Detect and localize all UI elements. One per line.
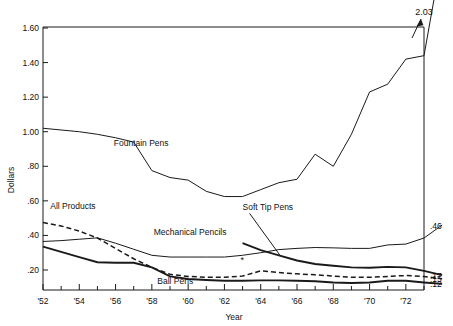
series-label-fountain-pens: Fountain Pens [114,138,169,148]
x-tick-label: '56 [110,296,121,306]
series-label-soft-tip-pens: Soft Tip Pens [243,202,294,212]
y-tick-label: 1.60 [22,23,39,33]
x-tick-label: '52 [37,296,48,306]
series-label-ball-pens: Ball Pens [157,276,193,286]
annotation-value-2-03: 2.03 [415,7,433,17]
x-tick-label: '72 [400,296,411,306]
x-tick-label: '58 [146,296,157,306]
x-tick-label: '62 [219,296,230,306]
y-tick-label: .80 [27,161,39,171]
y-tick-label: .20 [27,265,39,275]
x-tick-label: '68 [328,296,339,306]
line-chart: 1.601.401.201.00.80.60.40.20 '52'54'56'5… [0,0,453,326]
x-axis-title: Year [225,312,242,322]
end-value-label: .12 [430,279,442,289]
x-tick-label: '64 [255,296,266,306]
x-tick-label: '70 [364,296,375,306]
y-axis-title: Dollars [6,167,16,193]
y-tick-label: .40 [27,230,39,240]
y-tick-label: 1.20 [22,92,39,102]
x-tick-label: '66 [291,296,302,306]
x-tick-label: '54 [74,296,85,306]
x-tick-label: '60 [183,296,194,306]
series-label-mechanical-pencils: Mechanical Pencils [154,227,227,237]
series-label-all-products: All Products [50,201,95,211]
chart-canvas: 1.601.401.201.00.80.60.40.20 '52'54'56'5… [0,0,453,326]
end-value-label: .46 [430,221,442,231]
y-tick-label: 1.00 [22,127,39,137]
y-tick-label: 1.40 [22,58,39,68]
y-tick-label: .60 [27,196,39,206]
asterisk-marker: * [241,255,245,265]
